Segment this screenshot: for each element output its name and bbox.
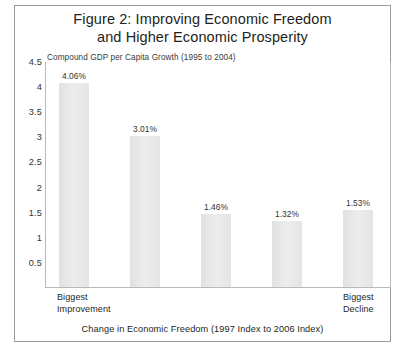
x-category-label-left: Biggest Improvement xyxy=(57,292,111,315)
y-axis-tick-4: 4 xyxy=(14,82,42,92)
bar-group: 1.53% xyxy=(343,61,373,287)
y-axis-tick-1.5: 1.5 xyxy=(14,208,42,218)
x-category-label-left-line-1: Biggest xyxy=(57,292,111,304)
bar-group: 3.01% xyxy=(130,61,160,287)
chart-title-line-2: and Higher Economic Prosperity xyxy=(14,28,391,46)
bar-group: 4.06% xyxy=(59,61,89,287)
y-axis-tick-labels: 4.543.532.521.510.5 xyxy=(14,55,42,295)
y-axis-tick-2.5: 2.5 xyxy=(14,157,42,167)
y-axis-tick-3: 3 xyxy=(14,132,42,142)
bar[interactable] xyxy=(343,210,373,287)
x-category-label-right: Biggest Decline xyxy=(343,292,374,315)
x-axis-title: Change in Economic Freedom (1997 Index t… xyxy=(14,324,391,335)
bar-value-label: 4.06% xyxy=(44,71,104,81)
y-axis-tick-4.5: 4.5 xyxy=(14,57,42,67)
y-axis-tick-1: 1 xyxy=(14,233,42,243)
bar[interactable] xyxy=(130,136,160,287)
bar[interactable] xyxy=(272,221,302,287)
bar-group: 1.46% xyxy=(201,61,231,287)
bar-value-label: 1.53% xyxy=(328,198,388,208)
x-category-label-right-line-2: Decline xyxy=(343,304,374,316)
bar-value-label: 1.32% xyxy=(257,209,317,219)
y-axis-tick-3.5: 3.5 xyxy=(14,107,42,117)
bar[interactable] xyxy=(59,83,89,287)
x-category-label-left-line-2: Improvement xyxy=(57,304,111,316)
bar-value-label: 3.01% xyxy=(115,124,175,134)
y-axis-tick-2: 2 xyxy=(14,183,42,193)
plot-area: 4.06%3.01%1.46%1.32%1.53% xyxy=(45,62,391,288)
bar[interactable] xyxy=(201,214,231,287)
x-category-label-right-line-1: Biggest xyxy=(343,292,374,304)
y-axis-tick-0.5: 0.5 xyxy=(14,258,42,268)
bar-group: 1.32% xyxy=(272,61,302,287)
figure-container: Figure 2: Improving Economic Freedom and… xyxy=(0,0,405,347)
bar-value-label: 1.46% xyxy=(186,202,246,212)
chart-title: Figure 2: Improving Economic Freedom and… xyxy=(14,10,391,46)
chart-title-line-1: Figure 2: Improving Economic Freedom xyxy=(14,10,391,28)
